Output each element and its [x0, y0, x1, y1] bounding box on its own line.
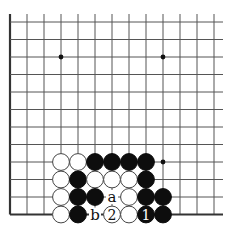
black-stone-icon: [104, 154, 121, 171]
white-stone: [70, 154, 87, 171]
black-stone-icon: [70, 206, 87, 223]
black-stone-icon: [87, 189, 104, 206]
star-point-icon: [59, 55, 64, 60]
black-stone: [138, 154, 155, 171]
white-stone: [104, 171, 121, 188]
black-stone: [87, 189, 104, 206]
white-stone-icon: [53, 206, 70, 223]
move-number-label: 2: [108, 207, 117, 223]
white-stone: [53, 206, 70, 223]
black-stone: [155, 206, 172, 223]
white-stone: [53, 189, 70, 206]
black-stone-icon: [138, 154, 155, 171]
black-stone-icon: [155, 189, 172, 206]
white-stone: [87, 171, 104, 188]
point-marker-a: a: [108, 188, 117, 206]
star-point-icon: [161, 160, 166, 165]
white-stone: [53, 171, 70, 188]
white-stone: 2: [104, 206, 121, 223]
white-stone-icon: [53, 154, 70, 171]
star-point-icon: [161, 55, 166, 60]
white-stone-icon: [53, 189, 70, 206]
white-stone-icon: [53, 171, 70, 188]
go-board: 21 ab: [0, 0, 235, 225]
black-stone: [138, 171, 155, 188]
black-stone-icon: [70, 189, 87, 206]
white-stone-icon: [121, 189, 138, 206]
black-stone: [121, 154, 138, 171]
black-stone-icon: [138, 189, 155, 206]
black-stone: [138, 189, 155, 206]
move-number-label: 1: [142, 207, 151, 223]
black-stone: [70, 189, 87, 206]
black-stone: 1: [138, 206, 155, 223]
black-stone: [104, 154, 121, 171]
white-stone-icon: [121, 171, 138, 188]
black-stone: [155, 189, 172, 206]
white-stone: [121, 171, 138, 188]
black-stone-icon: [87, 154, 104, 171]
white-stone-icon: [121, 206, 138, 223]
point-marker-b: b: [90, 206, 100, 224]
white-stone: [121, 206, 138, 223]
black-stone-icon: [70, 171, 87, 188]
white-stone: [53, 154, 70, 171]
white-stone-icon: [70, 154, 87, 171]
black-stone: [87, 154, 104, 171]
black-stone-icon: [155, 206, 172, 223]
black-stone: [70, 171, 87, 188]
black-stone: [70, 206, 87, 223]
black-stone-icon: [138, 171, 155, 188]
black-stone-icon: [121, 154, 138, 171]
white-stone: [121, 189, 138, 206]
white-stone-icon: [87, 171, 104, 188]
white-stone-icon: [104, 171, 121, 188]
